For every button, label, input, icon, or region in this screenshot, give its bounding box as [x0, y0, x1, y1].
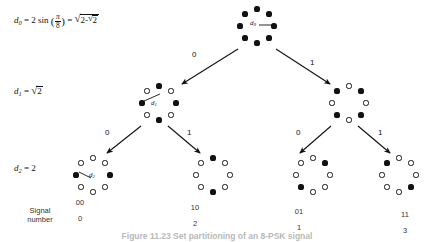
constellation-point-open — [222, 184, 227, 189]
edge-level0-to-level1-left — [182, 49, 238, 84]
constellation-point-open — [310, 155, 315, 160]
edge-level0-to-level1-right — [276, 49, 330, 84]
constellation-point-open — [227, 172, 232, 177]
distance-label-sub: 2 — [93, 174, 96, 179]
constellation-point-filled — [322, 160, 327, 165]
distance-indicator-level1-left — [128, 80, 190, 126]
edge-level1-left-to-level2-a — [107, 126, 141, 153]
edge-label-1-root-right: 1 — [310, 58, 314, 67]
edge-label-0-root-left: 0 — [192, 50, 196, 59]
constellation-point-filled — [358, 112, 363, 117]
constellation-point-open — [396, 189, 401, 194]
constellation-point-filled — [358, 88, 363, 93]
edge-label-1-left-b: 1 — [187, 128, 191, 137]
constellation-level2-a: d2 — [62, 152, 124, 198]
distance-equation-d0: d0 = 2 sin (π8) = 2-2 — [14, 13, 99, 30]
signal-number-caption: Signal number — [14, 206, 66, 225]
constellation-point-open — [193, 172, 198, 177]
signal-number-col-2: 01 1 — [286, 207, 312, 232]
distance-label-sub: 1 — [155, 102, 158, 107]
signal-index-0: 0 — [67, 214, 93, 223]
constellation-point-open — [222, 160, 227, 165]
constellation-level2-c — [282, 152, 344, 198]
constellation-point-filled — [334, 112, 339, 117]
signal-bits-1: 10 — [182, 203, 208, 212]
constellation-point-open — [384, 184, 389, 189]
constellation-point-open — [379, 172, 384, 177]
constellation-point-open — [413, 172, 418, 177]
constellation-point-open — [363, 100, 368, 105]
distance-label-sub: 0 — [254, 22, 257, 27]
constellation-level2-b — [182, 152, 244, 198]
constellation-level1-left: d1 — [128, 80, 190, 126]
figure-canvas: 0 1 0 1 0 1 d0 = 2 sin (π8) = 2-2 d1 = 2… — [0, 0, 434, 242]
signal-index-1: 2 — [182, 219, 208, 228]
edge-level1-right-to-level2-c — [300, 126, 331, 153]
signal-bits-3: 11 — [392, 210, 418, 219]
signal-number-caption-line2: number — [27, 215, 52, 224]
constellation-point-open — [396, 155, 401, 160]
constellation-point-open — [329, 100, 334, 105]
constellation-level2-d — [368, 152, 430, 198]
constellation-point-open — [322, 184, 327, 189]
constellation-point-open — [346, 83, 351, 88]
edge-label-0-left-a: 0 — [105, 128, 109, 137]
constellation-point-open — [346, 117, 351, 122]
constellation-point-filled — [334, 88, 339, 93]
edge-level1-right-to-level2-d — [358, 126, 390, 153]
signal-number-col-0: 00 0 — [67, 198, 93, 223]
constellation-point-open — [327, 172, 332, 177]
distance-label-d0: d0 — [250, 19, 256, 27]
edge-label-1-right-d: 1 — [378, 128, 382, 137]
distance-label-d2: d2 — [89, 171, 95, 179]
constellation-level0: d0 — [226, 3, 288, 49]
figure-caption: Figure 11.23 Set partitioning of an 8-PS… — [0, 231, 434, 241]
constellation-point-open — [298, 160, 303, 165]
distance-equation-d2: d2 = 2 — [14, 164, 36, 175]
constellation-point-open — [408, 160, 413, 165]
constellation-point-filled — [384, 160, 389, 165]
constellation-point-filled — [298, 184, 303, 189]
constellation-point-filled — [210, 189, 215, 194]
distance-label-d1: d1 — [151, 99, 157, 107]
constellation-point-filled — [210, 155, 215, 160]
distance-indicator-level0 — [226, 3, 288, 49]
constellation-point-filled — [408, 184, 413, 189]
signal-bits-0: 00 — [67, 198, 93, 207]
signal-bits-2: 01 — [286, 207, 312, 216]
edge-level1-left-to-level2-b — [168, 126, 200, 153]
signal-number-col-1: 10 2 — [182, 203, 208, 228]
constellation-point-open — [293, 172, 298, 177]
signal-number-caption-line1: Signal — [30, 206, 51, 215]
constellation-point-open — [198, 160, 203, 165]
constellation-point-open — [310, 189, 315, 194]
constellation-level1-right — [318, 80, 380, 126]
distance-equation-d1: d1 = 2 — [14, 86, 43, 98]
constellation-point-open — [198, 184, 203, 189]
edge-label-0-right-c: 0 — [296, 128, 300, 137]
